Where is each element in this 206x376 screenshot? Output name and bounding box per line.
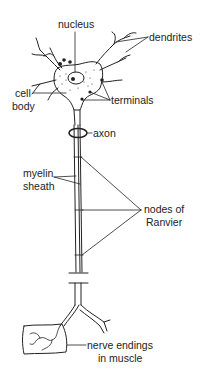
label-axon: axon bbox=[93, 127, 116, 139]
label-nodes-line2: Ranvier bbox=[146, 216, 182, 228]
label-nucleus: nucleus bbox=[58, 18, 94, 30]
label-cell-body-line1: cell bbox=[15, 87, 31, 99]
muscle-tissue bbox=[23, 324, 67, 354]
label-nerve-endings-line1: nerve endings bbox=[87, 339, 153, 351]
label-nodes-line1: nodes of bbox=[144, 203, 184, 215]
label-myelin-line1: myelin bbox=[23, 167, 53, 179]
label-dendrites: dendrites bbox=[149, 31, 192, 43]
neuron-diagram: nucleus dendrites cell body terminals ax… bbox=[0, 0, 206, 376]
label-myelin-line2: sheath bbox=[23, 180, 55, 192]
cell-body-shape bbox=[54, 62, 103, 110]
label-terminals: terminals bbox=[111, 94, 154, 106]
label-nerve-endings-line2: in muscle bbox=[98, 352, 142, 364]
label-cell-body-line2: body bbox=[12, 100, 35, 112]
